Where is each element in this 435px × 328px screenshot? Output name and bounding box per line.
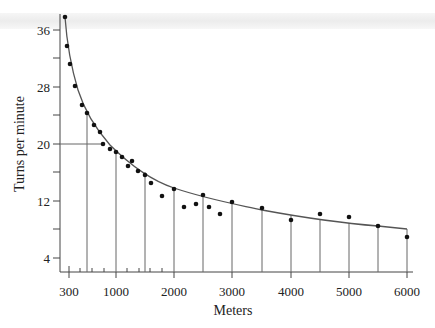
x-tick-label-300: 300 xyxy=(59,284,79,299)
x-axis-title: Meters xyxy=(214,303,253,318)
y-tick-label-36: 36 xyxy=(37,23,51,38)
y-tick-label-12: 12 xyxy=(37,194,50,209)
drop-lines xyxy=(87,113,407,272)
x-tick-label-5000: 5000 xyxy=(336,284,362,299)
y-axis-title: Turns per minute xyxy=(12,96,27,192)
x-tick-label-1000: 1000 xyxy=(103,284,129,299)
x-tick-label-2000: 2000 xyxy=(161,284,187,299)
y-tick-label-4: 4 xyxy=(44,251,51,266)
x-tick-label-6000: 6000 xyxy=(394,284,420,299)
data-points xyxy=(63,15,410,240)
y-tick-label-28: 28 xyxy=(37,80,50,95)
y-ticks xyxy=(53,30,60,258)
y-tick-label-20: 20 xyxy=(37,137,50,152)
x-tick-label-3000: 3000 xyxy=(219,284,245,299)
x-tick-label-4000: 4000 xyxy=(278,284,304,299)
chart: 36 28 20 12 4 Turns per minute xyxy=(0,0,435,328)
